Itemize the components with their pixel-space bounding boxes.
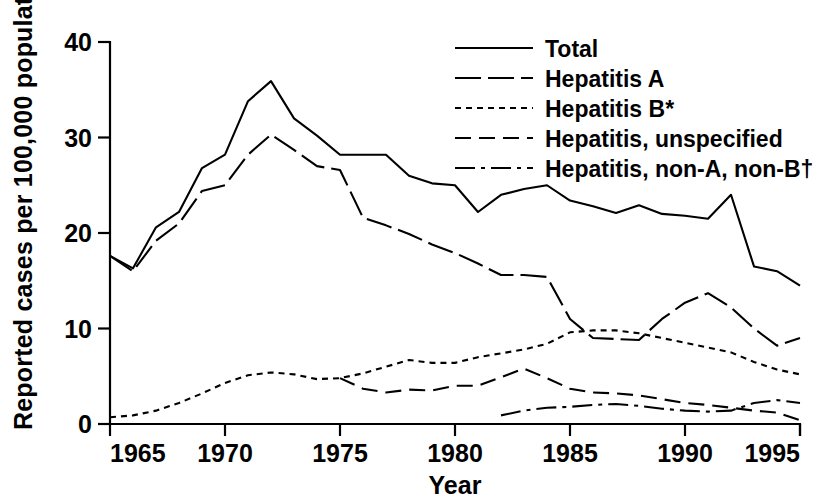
legend-item-total: Total — [545, 36, 598, 62]
x-tick-label: 1995 — [744, 439, 800, 467]
y-tick-label: 20 — [64, 219, 92, 247]
x-axis-title: Year — [429, 471, 482, 499]
x-tick-label: 1980 — [427, 439, 483, 467]
y-axis-title: Reported cases per 100,000 population — [9, 0, 37, 430]
x-axis-ticks: 1965197019751980198519901995 — [110, 424, 800, 467]
y-tick-label: 0 — [78, 410, 92, 438]
x-tick-label: 1990 — [657, 439, 713, 467]
x-tick-label: 1970 — [197, 439, 253, 467]
chart-legend: TotalHepatitis AHepatitis B*Hepatitis, u… — [455, 36, 813, 182]
x-tick-label: 1985 — [542, 439, 598, 467]
y-tick-label: 40 — [64, 28, 92, 56]
legend-item-hepatitis-nonanonb: Hepatitis, non-A, non-B† — [545, 156, 813, 182]
x-tick-label: 1965 — [110, 439, 166, 467]
legend-item-hepatitis-b: Hepatitis B* — [545, 96, 674, 122]
hepatitis-incidence-line-chart: Reported cases per 100,000 population 01… — [0, 0, 835, 500]
x-tick-label: 1975 — [312, 439, 368, 467]
y-tick-label: 10 — [64, 315, 92, 343]
y-tick-label: 30 — [64, 124, 92, 152]
series-line-total — [110, 81, 800, 285]
series-line-hepatitis-non-a-non-b — [501, 400, 800, 415]
chart-figure: Reported cases per 100,000 population 01… — [0, 0, 835, 500]
y-axis-ticks: 010203040 — [64, 28, 110, 438]
series-line-hepatitis-unspecified — [340, 369, 800, 421]
legend-item-hepatitis-unspecified: Hepatitis, unspecified — [545, 126, 783, 152]
legend-item-hepatitis-a: Hepatitis A — [545, 66, 664, 92]
